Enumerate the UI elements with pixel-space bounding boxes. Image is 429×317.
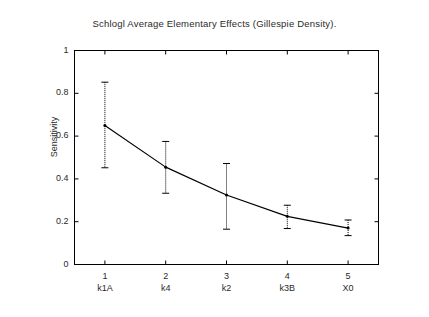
- x-tick-number: 4: [267, 271, 307, 281]
- x-tick-category: k1A: [85, 283, 125, 293]
- x-tick-number: 1: [85, 271, 125, 281]
- data-line: [105, 125, 348, 228]
- x-tick-category: X0: [328, 283, 368, 293]
- y-tick-label: 0.8: [35, 87, 69, 97]
- axis-ticks: [75, 51, 379, 265]
- x-tick-category: k3B: [267, 283, 307, 293]
- x-tick-category: k4: [146, 283, 186, 293]
- chart-figure: Schlogl Average Elementary Effects (Gill…: [0, 0, 429, 317]
- x-tick-number: 2: [146, 271, 186, 281]
- x-tick-number: 5: [328, 271, 368, 281]
- y-tick-label: 1: [35, 45, 69, 55]
- x-tick-number: 3: [207, 271, 247, 281]
- y-tick-label: 0: [35, 259, 69, 269]
- y-tick-label: 0.6: [35, 130, 69, 140]
- x-tick-category: k2: [207, 283, 247, 293]
- axes-frame: [75, 51, 379, 265]
- y-tick-label: 0.4: [35, 173, 69, 183]
- error-bars: [101, 82, 351, 235]
- y-tick-label: 0.2: [35, 216, 69, 226]
